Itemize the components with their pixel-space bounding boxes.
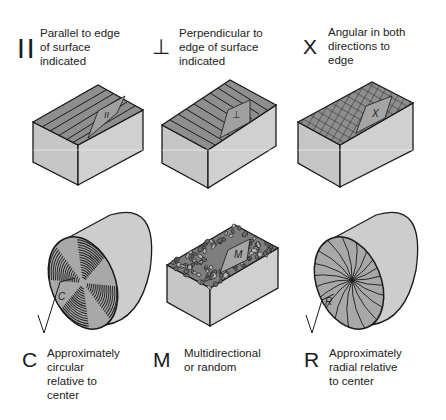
random-texture-chip: [219, 278, 222, 283]
random-texture-chip: [206, 269, 210, 273]
random-texture-chip: [234, 267, 237, 271]
figure-label: ⊥: [232, 109, 241, 120]
figure-label: X: [371, 108, 379, 119]
random-texture-chip: [175, 257, 178, 263]
figure-label: M: [234, 249, 243, 260]
perpendicular-lay-block: ⊥: [162, 80, 276, 188]
random-texture-chip: [255, 255, 259, 260]
random-texture-chip: [174, 266, 178, 271]
random-texture-chip: [232, 224, 236, 228]
random-texture-chip: [203, 249, 207, 254]
lay-illustrations: II ⊥ X C: [0, 0, 446, 420]
figure-label: II: [104, 110, 110, 120]
random-texture-chip: [247, 257, 251, 260]
random-texture-chip: [183, 274, 189, 277]
circular-lay-cylinder: C: [35, 212, 152, 339]
figure-label: C: [58, 291, 66, 302]
angular-lay-block: X: [298, 82, 413, 187]
parallel-lay-block: II: [33, 85, 143, 185]
random-texture-chip: [209, 265, 213, 270]
radial-lay-cylinder: R: [292, 212, 418, 340]
figure-label: R: [325, 296, 332, 307]
multidirectional-lay-block: M: [167, 224, 278, 326]
